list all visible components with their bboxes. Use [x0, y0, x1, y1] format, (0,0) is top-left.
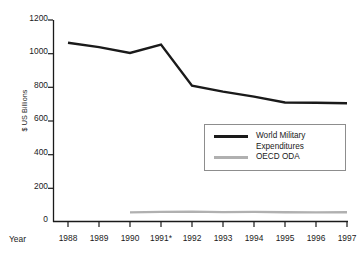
chart-legend: World Military Expenditures OECD ODA [204, 124, 346, 171]
legend-swatch-icon [214, 135, 248, 138]
series-world-military-expenditures [68, 43, 347, 104]
x-tick-label-1997: 1997 [338, 234, 357, 243]
x-tick-label-1994: 1994 [245, 234, 264, 243]
legend-swatch-icon [214, 156, 248, 159]
x-tick-label-1995: 1995 [276, 234, 295, 243]
legend-label: OECD ODA [256, 152, 300, 163]
x-tick-label-1989: 1989 [90, 234, 109, 243]
x-axis-ticks [68, 222, 347, 227]
legend-item-world-military-expenditures: World Military Expenditures [214, 131, 305, 152]
y-axis-ticks [48, 20, 53, 188]
x-tick-label-1993: 1993 [214, 234, 233, 243]
chart-figure: $ US Billions 1200 1000 800 600 400 200 … [0, 0, 359, 256]
legend-label: World Military Expenditures [256, 131, 305, 152]
x-tick-label-1988: 1988 [59, 234, 78, 243]
x-tick-label-1996: 1996 [307, 234, 326, 243]
x-axis-title: Year [9, 234, 26, 244]
x-tick-label-1992: 1992 [183, 234, 202, 243]
legend-item-oecd-oda: OECD ODA [214, 152, 300, 163]
series-oecd-oda [130, 212, 347, 213]
x-tick-label-1991: 1991* [150, 234, 172, 243]
x-tick-label-1990: 1990 [121, 234, 140, 243]
